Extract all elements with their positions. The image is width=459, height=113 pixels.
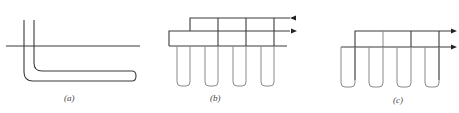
upper-flow-line: [355, 31, 452, 80]
tube-3: [233, 46, 246, 86]
l-tube-outer-wall: [24, 20, 136, 81]
upper-manifold-frame: [190, 18, 290, 31]
figure-canvas: (a) (b) (c): [0, 0, 459, 113]
tube-4: [425, 47, 439, 87]
lower-manifold-frame: [169, 31, 290, 46]
panel-c: (c): [341, 29, 457, 106]
tube-3: [397, 47, 411, 87]
arrow-right-icon: [291, 29, 297, 34]
tube-1: [341, 47, 355, 87]
tube-2: [369, 47, 383, 87]
panel-a-label: (a): [64, 93, 75, 103]
arrow-right-icon: [451, 45, 457, 50]
panel-b: (b): [169, 16, 297, 104]
tube-2: [205, 46, 218, 86]
tube-1: [177, 46, 190, 86]
tube-4: [261, 46, 274, 86]
panel-c-label: (c): [393, 95, 403, 105]
arrow-right-icon: [451, 29, 457, 34]
panel-a: (a): [6, 20, 140, 103]
panel-b-label: (b): [210, 93, 221, 103]
arrow-left-icon: [290, 16, 296, 21]
